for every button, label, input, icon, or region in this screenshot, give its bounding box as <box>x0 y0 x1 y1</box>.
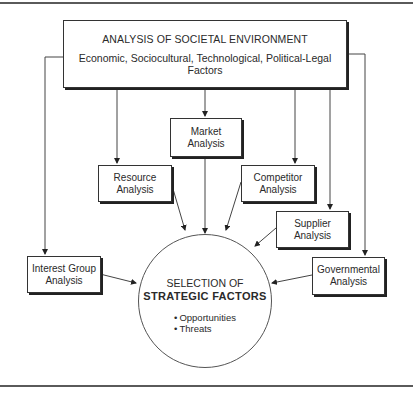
environment-title: ANALYSIS OF SOCIETAL ENVIRONMENT <box>102 33 307 45</box>
box-label: Market <box>191 126 222 138</box>
box-label: Analysis <box>330 276 367 288</box>
market-analysis-box: Market Analysis <box>170 118 242 157</box>
box-label: Resource <box>114 172 157 184</box>
competitor-analysis-box: Competitor Analysis <box>241 165 315 202</box>
arrow-resource-to-center <box>171 182 185 230</box>
box-label: Analysis <box>45 275 82 287</box>
arrow-to-interest-group <box>45 57 63 254</box>
box-label: Competitor <box>254 172 303 184</box>
arrow-governmental-to-center <box>272 275 312 283</box>
box-label: Analysis <box>187 138 224 150</box>
box-label: Analysis <box>294 230 331 242</box>
bullet-threats: Threats <box>174 323 236 334</box>
supplier-analysis-box: Supplier Analysis <box>276 211 349 248</box>
societal-environment-box: ANALYSIS OF SOCIETAL ENVIRONMENT Economi… <box>63 20 347 88</box>
environment-subtitle: Economic, Sociocultural, Technological, … <box>64 52 346 76</box>
arrow-competitor-to-center <box>226 182 241 230</box>
box-label: Analysis <box>259 184 296 196</box>
center-bullet-list: Opportunities Threats <box>174 312 236 334</box>
arrow-supplier-to-center <box>255 228 276 246</box>
strategic-factors-circle: SELECTION OF STRATEGIC FACTORS Opportuni… <box>138 234 272 368</box>
box-label: Interest Group <box>32 263 96 275</box>
box-label: Analysis <box>116 184 153 196</box>
box-label: Supplier <box>294 218 331 230</box>
bullet-opportunities: Opportunities <box>174 312 236 323</box>
resource-analysis-box: Resource Analysis <box>98 165 172 202</box>
box-label: Governmental <box>317 264 380 276</box>
center-title-line2: STRATEGIC FACTORS <box>143 290 266 303</box>
arrow-interest-to-center <box>100 274 136 283</box>
arrow-to-governmental <box>347 54 365 255</box>
governmental-analysis-box: Governmental Analysis <box>312 257 385 295</box>
interest-group-analysis-box: Interest Group Analysis <box>27 256 101 293</box>
center-title-line1: SELECTION OF <box>166 277 243 290</box>
